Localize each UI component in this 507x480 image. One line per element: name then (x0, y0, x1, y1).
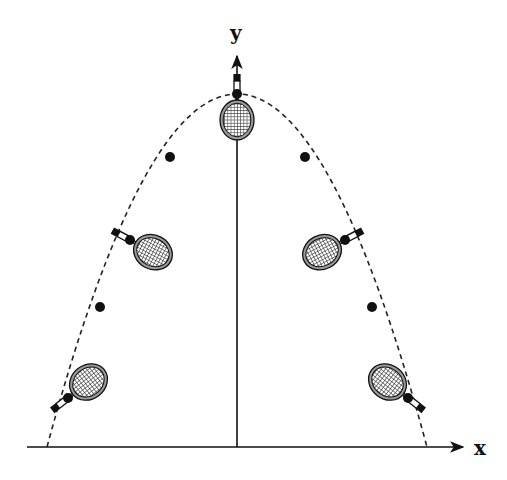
racket-apex (220, 74, 254, 140)
com-dot (367, 302, 377, 312)
com-dot (300, 152, 310, 162)
racket-upper-right (296, 216, 370, 277)
com-dot (340, 235, 350, 245)
com-dot (403, 393, 413, 403)
racket-trajectory-diagram: x y (0, 0, 507, 480)
x-axis-label: x (474, 436, 487, 460)
com-dot (232, 89, 242, 99)
com-dot (125, 235, 135, 245)
racket-lower-left (42, 356, 115, 423)
com-dot (165, 152, 175, 162)
com-dot (95, 302, 105, 312)
racket-upper-left (104, 216, 178, 277)
com-dot (63, 393, 73, 403)
y-axis-label: y (229, 21, 243, 45)
racket-lower-right (361, 356, 434, 423)
